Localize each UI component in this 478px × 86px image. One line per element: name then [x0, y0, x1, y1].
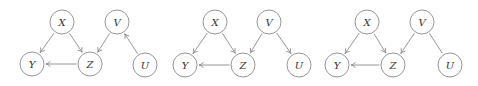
edge-v-u [429, 33, 442, 53]
node-u: U [133, 53, 157, 77]
node-x: X [50, 10, 74, 34]
edge-v-z [98, 33, 110, 52]
node-x: X [355, 10, 379, 34]
node-y: Y [173, 53, 197, 77]
node-y: Y [20, 52, 44, 76]
node-label: U [295, 60, 304, 71]
node-u: U [438, 53, 462, 77]
edge-x-y [193, 33, 207, 53]
node-x: X [203, 10, 227, 34]
node-label: U [141, 60, 150, 71]
node-u: U [287, 53, 311, 77]
graph-2-nodes: XVYZU [173, 10, 311, 77]
arrowhead-icon [78, 47, 83, 52]
causal-graphs-canvas: XVYZUXVYZUXVYZU [0, 0, 478, 86]
node-label: X [57, 17, 66, 28]
node-label: Z [239, 60, 248, 71]
edge-u-v [125, 34, 138, 54]
node-v: V [105, 10, 129, 34]
node-label: Z [86, 59, 95, 70]
edge-x-z [222, 33, 235, 53]
node-label: Z [389, 60, 398, 71]
edge-v-z [401, 33, 415, 53]
node-z: Z [231, 53, 255, 77]
arrowhead-icon [401, 48, 406, 53]
edge-x-y [40, 33, 54, 53]
edge-x-y [345, 33, 359, 53]
edge-v-u [277, 33, 291, 53]
node-v: V [257, 10, 281, 34]
node-label: X [210, 17, 219, 28]
graph-3-nodes: XVYZU [325, 10, 462, 77]
edge-x-z [69, 33, 82, 52]
edge-x-z [374, 34, 386, 53]
edge-v-z [250, 34, 262, 53]
graph-1-nodes: XVYZU [20, 10, 157, 77]
node-label: X [362, 17, 371, 28]
arrowhead-icon [231, 48, 236, 53]
nodes-layer: XVYZUXVYZUXVYZU [20, 10, 462, 77]
node-z: Z [381, 53, 405, 77]
node-y: Y [325, 53, 349, 77]
node-v: V [410, 10, 434, 34]
node-z: Z [78, 52, 102, 76]
arrowhead-icon [125, 34, 130, 39]
node-label: U [446, 60, 455, 71]
